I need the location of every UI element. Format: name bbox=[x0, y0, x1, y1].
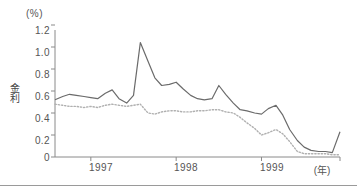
x-axis-ticks bbox=[91, 157, 340, 161]
interest-rate-line-chart: (%) 金 利 1.2 1.0 0.8 0.6 0.4 0.2 0 1997 1… bbox=[0, 0, 357, 193]
series-line-solid bbox=[55, 43, 340, 153]
axis-lines bbox=[55, 30, 340, 157]
series-line-dotted bbox=[55, 104, 340, 155]
chart-plot-area bbox=[0, 0, 357, 193]
footer-divider-rule bbox=[0, 185, 357, 186]
y-axis-ticks bbox=[51, 25, 55, 157]
